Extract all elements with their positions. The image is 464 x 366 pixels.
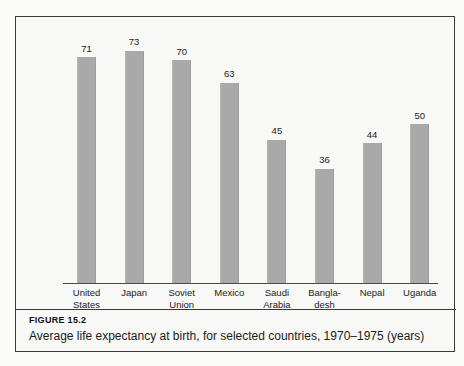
bar-column[interactable]: 45 (267, 140, 286, 283)
figure-frame: 7173706345364450 UnitedStatesJapanSoviet… (15, 16, 455, 352)
bar-rect[interactable] (267, 140, 286, 283)
bar-value-label: 44 (367, 130, 378, 140)
category-axis-line (63, 283, 438, 284)
bar-column[interactable]: 70 (172, 60, 191, 283)
bar-column[interactable]: 63 (220, 83, 239, 283)
bar-rect[interactable] (220, 83, 239, 283)
bar-value-label: 73 (129, 37, 140, 47)
bar-rect[interactable] (77, 57, 96, 283)
bar-value-label: 63 (224, 69, 235, 79)
bar-value-label: 70 (176, 47, 187, 57)
bar-value-label: 45 (272, 126, 283, 136)
bar-column[interactable]: 73 (125, 51, 144, 283)
bar-chart-plot-area: 7173706345364450 UnitedStatesJapanSoviet… (16, 17, 456, 309)
bar-rect[interactable] (410, 124, 429, 283)
bar-rect[interactable] (125, 51, 144, 283)
caption-block: FIGURE 15.2 Average life expectancy at b… (16, 310, 456, 352)
category-label-line1: Uganda (388, 287, 452, 299)
figure-caption-text: Average life expectancy at birth, for se… (29, 329, 443, 343)
bar-column[interactable]: 36 (315, 169, 334, 284)
bar-value-label: 50 (414, 111, 425, 121)
figure-number-label: FIGURE 15.2 (29, 315, 443, 326)
bar-column[interactable]: 71 (77, 57, 96, 283)
category-label: Uganda (388, 287, 452, 299)
bar-rect[interactable] (172, 60, 191, 283)
bar-rect[interactable] (363, 143, 382, 283)
bar-value-label: 71 (81, 44, 92, 54)
bar-column[interactable]: 44 (363, 143, 382, 283)
bar-rect[interactable] (315, 169, 334, 284)
figure-page: 7173706345364450 UnitedStatesJapanSoviet… (0, 0, 464, 366)
bar-column[interactable]: 50 (410, 124, 429, 283)
bar-value-label: 36 (319, 155, 330, 165)
